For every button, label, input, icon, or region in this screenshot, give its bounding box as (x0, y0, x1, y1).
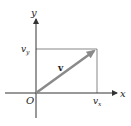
origin-label: O (26, 95, 34, 106)
x-axis-label: x (120, 88, 126, 99)
vector-component-diagram: y x O v vy vx (0, 0, 131, 126)
y-component-label: vy (21, 44, 30, 56)
vector-v-arrow (36, 51, 94, 93)
y-axis-label: y (30, 7, 37, 18)
vector-label: v (57, 63, 64, 73)
x-component-label: vx (93, 96, 102, 107)
